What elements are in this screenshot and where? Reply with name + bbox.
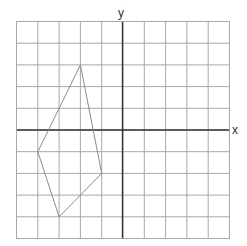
y-axis-label: y bbox=[118, 6, 124, 20]
x-axis-label: x bbox=[232, 123, 238, 137]
coordinate-plane: y x bbox=[0, 0, 247, 246]
quadrilateral-shape bbox=[38, 65, 102, 217]
